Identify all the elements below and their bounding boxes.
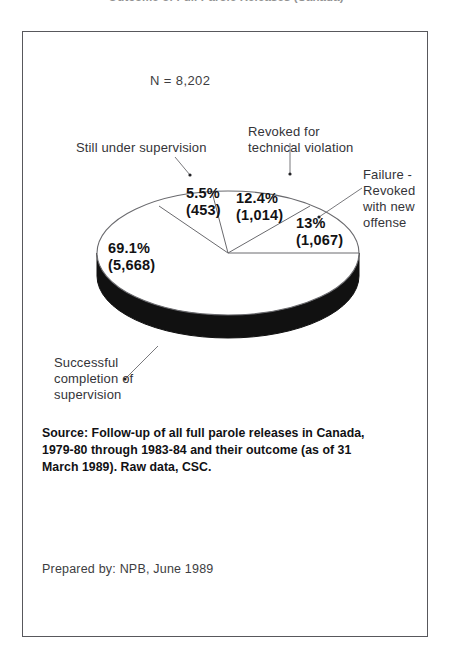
prepared-by-note: Prepared by: NPB, June 1989 <box>42 562 213 576</box>
chart-frame-border <box>22 31 428 637</box>
pie-value-still-under-supervision: 5.5% (453) <box>186 185 221 219</box>
pie-label-failure-revoked-new-offense: Failure - Revoked with new offense <box>363 167 415 231</box>
source-note: Source: Follow-up of all full parole rel… <box>42 425 390 476</box>
pie-label-revoked-technical-violation: Revoked for technical violation <box>248 124 353 155</box>
pie-label-still-under-supervision: Still under supervision <box>76 140 207 156</box>
pie-value-failure-revoked-new-offense: 13% (1,067) <box>296 215 343 249</box>
pie-value-successful-completion: 69.1% (5,668) <box>108 240 155 274</box>
pie-value-revoked-technical-violation: 12.4% (1,014) <box>236 190 283 224</box>
sample-size-caption: N = 8,202 <box>150 73 210 88</box>
pie-label-successful-completion: Successful completion of supervision <box>54 355 133 403</box>
page-title: Outcome of Full Parole Releases (Canada) <box>0 0 452 3</box>
